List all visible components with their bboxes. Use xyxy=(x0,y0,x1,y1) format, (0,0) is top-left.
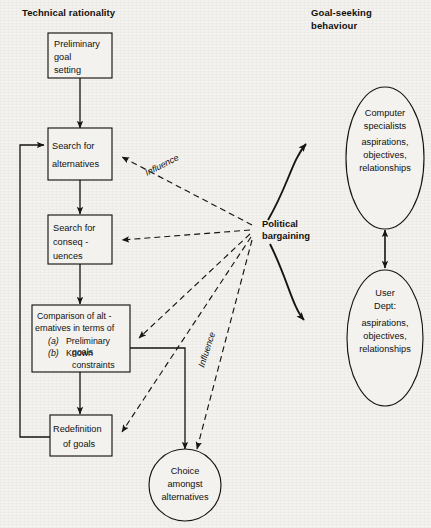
label-comparison-item-a-line1: Preliminary xyxy=(66,336,111,346)
label-user-dept-line2: objectives, xyxy=(363,331,406,341)
label-user-dept-line1: aspirations, xyxy=(362,318,409,328)
label-comparison-line1: Comparison of alt - xyxy=(37,311,111,321)
label-preliminary-goal-setting-line3: setting xyxy=(54,65,81,75)
label-comparison-item-b-marker: (b) xyxy=(48,348,59,358)
edge-influence-to-search-consequences xyxy=(122,230,250,240)
label-preliminary-goal-setting-line2: goal xyxy=(54,52,71,62)
label-political-bargaining-line2: bargaining xyxy=(262,230,310,241)
label-influence-upper: Influence xyxy=(143,152,180,177)
label-user-dept-title1: User xyxy=(375,288,394,298)
diagram-canvas: Technical rationality Goal-seeking behav… xyxy=(0,0,431,528)
edge-hub-to-user-dept xyxy=(270,244,304,320)
edge-redefinition-feedback-loop xyxy=(20,145,50,437)
label-computer-specialists-title2: specialists xyxy=(364,121,407,131)
label-computer-specialists-line3: relationships xyxy=(359,163,411,173)
heading-goal-seeking-line2: behaviour xyxy=(311,20,358,31)
edge-hub-to-computer-specialists xyxy=(268,144,306,220)
label-search-for-consequences-line3: uences xyxy=(53,251,83,261)
node-redefinition-of-goals[interactable] xyxy=(50,415,112,456)
label-search-for-alternatives-line2: alternatives xyxy=(52,159,99,169)
node-search-for-alternatives[interactable] xyxy=(48,128,112,180)
label-comparison-item-a-marker: (a) xyxy=(48,336,59,346)
edge-comparison-to-choice xyxy=(130,348,185,449)
diagram-svg: Technical rationality Goal-seeking behav… xyxy=(0,0,431,528)
label-computer-specialists-title1: Computer xyxy=(365,108,405,118)
label-search-for-consequences-line2: conseq - xyxy=(53,237,88,247)
label-search-for-consequences-line1: Search for xyxy=(53,223,95,233)
heading-technical-rationality: Technical rationality xyxy=(22,7,116,18)
edge-influence-to-redefinition xyxy=(122,237,251,432)
label-redefinition-line2: of goals xyxy=(63,439,96,449)
label-choice-line2: amongst xyxy=(167,479,203,489)
label-political-bargaining-line1: Political xyxy=(262,218,298,229)
label-computer-specialists-line2: objectives, xyxy=(363,150,406,160)
label-redefinition-line1: Redefinition xyxy=(53,424,102,434)
label-search-for-alternatives-line1: Search for xyxy=(52,141,94,151)
label-comparison-line2: ernatives in terms of xyxy=(35,323,115,333)
label-choice-line1: Choice xyxy=(171,466,200,476)
label-comparison-item-b-line1: Known xyxy=(66,348,93,358)
label-choice-line3: alternatives xyxy=(162,492,209,502)
label-user-dept-title2: Dept: xyxy=(374,301,396,311)
label-comparison-item-b-line2: constraints xyxy=(72,360,115,370)
label-computer-specialists-line1: aspirations, xyxy=(362,137,409,147)
edge-influence-to-search-alternatives xyxy=(122,157,252,225)
label-user-dept-line3: relationships xyxy=(359,344,411,354)
label-influence-lower: Influence xyxy=(196,331,217,369)
label-preliminary-goal-setting-line1: Preliminary xyxy=(54,39,100,49)
heading-goal-seeking-line1: Goal-seeking xyxy=(311,7,372,18)
